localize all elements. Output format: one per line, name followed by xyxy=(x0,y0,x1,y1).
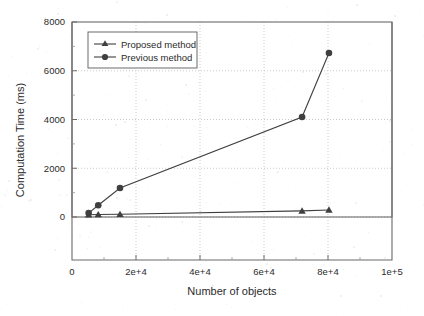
computation-time-line-chart: 02e+44e+46e+48e+41e+5 02000400060008000 … xyxy=(0,0,424,316)
y-tick-label: 4000 xyxy=(44,114,65,125)
y-tick-label: 6000 xyxy=(44,65,65,76)
x-tick-label: 2e+4 xyxy=(125,266,146,277)
figure-background xyxy=(0,0,424,316)
y-axis-title: Computation Time (ms) xyxy=(14,83,26,197)
legend-label-previous-method: Previous method xyxy=(121,52,192,63)
x-tick-label: 1e+5 xyxy=(381,266,402,277)
y-tick-label: 0 xyxy=(60,211,65,222)
y-tick-label: 2000 xyxy=(44,163,65,174)
circle-marker-icon xyxy=(102,54,108,60)
legend-label-proposed-method: Proposed method xyxy=(121,39,196,50)
legend-box xyxy=(88,32,197,68)
y-tick-label: 8000 xyxy=(44,16,65,27)
circle-marker xyxy=(95,202,102,209)
circle-marker xyxy=(299,114,306,121)
circle-marker xyxy=(326,50,333,57)
x-tick-label: 0 xyxy=(69,266,74,277)
chart-legend: Proposed method Previous method xyxy=(88,32,197,68)
x-tick-label: 8e+4 xyxy=(317,266,338,277)
x-tick-label: 6e+4 xyxy=(253,266,274,277)
x-tick-label: 4e+4 xyxy=(189,266,210,277)
chart-figure: 02e+44e+46e+48e+41e+5 02000400060008000 … xyxy=(0,0,424,316)
circle-marker xyxy=(117,185,124,192)
circle-marker xyxy=(85,210,92,217)
x-axis-title: Number of objects xyxy=(187,285,277,297)
